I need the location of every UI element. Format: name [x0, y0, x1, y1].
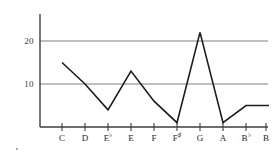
- note-letter-d: D: [82, 133, 89, 143]
- note-letter-a: A: [220, 133, 227, 143]
- line-chart: 20 10 C D E♭ E F F♯ G A B♭ B: [0, 0, 280, 155]
- note-accidental-e-flat: ♭: [109, 131, 112, 139]
- note-letter-c: C: [59, 133, 65, 143]
- y-tick-label-10: 10: [12, 79, 34, 89]
- y-tick-label-20: 20: [12, 36, 34, 46]
- plot-area: [0, 0, 280, 155]
- note-letter-e: E: [128, 133, 134, 143]
- scan-speck: [16, 148, 18, 150]
- x-tick-label-b: B: [253, 133, 279, 143]
- note-accidental-b-flat: ♭: [248, 131, 251, 139]
- note-letter-g: G: [197, 133, 204, 143]
- note-letter-b: B: [263, 133, 269, 143]
- gridlines: [40, 41, 268, 84]
- note-accidental-f-sharp: ♯: [178, 131, 182, 139]
- note-letter-f: F: [151, 133, 156, 143]
- data-series-line: [62, 32, 269, 122]
